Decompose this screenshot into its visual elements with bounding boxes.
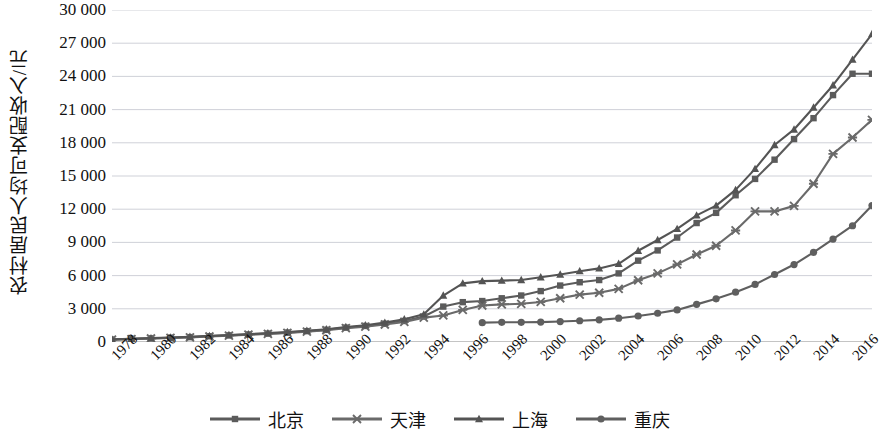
- y-axis-tick: 15 000: [59, 166, 106, 186]
- data-point-marker-x: [458, 306, 467, 314]
- data-point-marker-circle: [829, 235, 836, 242]
- data-point-marker-circle: [537, 318, 544, 325]
- data-point-marker-x: [614, 285, 623, 293]
- data-point-marker-x: [653, 269, 662, 277]
- data-point-marker-circle: [615, 315, 622, 322]
- data-point-marker-square: [771, 156, 777, 162]
- data-point-marker-x: [634, 276, 643, 284]
- data-point-marker-x: [536, 298, 545, 306]
- legend-item-4[interactable]: 重庆: [574, 406, 670, 432]
- data-point-marker-x: [556, 294, 565, 302]
- data-point-marker-circle: [596, 316, 603, 323]
- chart-canvas: [112, 10, 872, 342]
- data-point-marker-circle: [790, 261, 797, 268]
- data-point-marker-triangle: [439, 291, 447, 298]
- data-point-marker-square: [460, 299, 466, 305]
- data-point-marker-x: [750, 207, 759, 215]
- data-point-marker-square: [596, 277, 602, 283]
- data-point-marker-square: [869, 71, 872, 77]
- data-point-marker-square: [576, 279, 582, 285]
- data-point-marker-x: [731, 226, 740, 234]
- data-point-marker-square: [713, 210, 719, 216]
- data-point-marker-x: [789, 202, 798, 210]
- data-point-marker-circle: [693, 301, 700, 308]
- data-point-marker-square: [674, 234, 680, 240]
- data-point-marker-circle: [654, 310, 661, 317]
- data-point-marker-square: [849, 71, 855, 77]
- data-point-marker-circle: [597, 415, 604, 422]
- data-point-marker-square: [538, 288, 544, 294]
- y-axis-tick: 24 000: [59, 66, 106, 86]
- y-axis-tick: 12 000: [59, 199, 106, 219]
- data-point-marker-circle: [498, 319, 505, 326]
- data-point-marker-x: [848, 133, 857, 141]
- data-point-marker-square: [499, 295, 505, 301]
- series-line: [112, 74, 872, 340]
- data-point-marker-square: [810, 115, 816, 121]
- data-point-marker-square: [635, 257, 641, 263]
- data-point-marker-circle: [518, 319, 525, 326]
- data-point-marker-x: [770, 207, 779, 215]
- legend-label: 天津: [390, 406, 426, 432]
- data-point-marker-x: [867, 116, 872, 124]
- y-axis-tick: 9 000: [68, 232, 106, 252]
- data-point-marker-circle: [771, 271, 778, 278]
- legend-item-2[interactable]: 天津: [330, 406, 426, 432]
- data-point-marker-x: [673, 260, 682, 268]
- legend-label: 重庆: [634, 406, 670, 432]
- series-2: [112, 116, 872, 342]
- legend-item-1[interactable]: 北京: [208, 406, 304, 432]
- data-point-marker-x: [497, 300, 506, 308]
- data-point-marker-square: [232, 416, 238, 422]
- data-point-marker-circle: [810, 249, 817, 256]
- data-point-marker-circle: [557, 318, 564, 325]
- x-axis-tick-labels: 1978198019821984198619881990199219941996…: [0, 344, 878, 404]
- legend-marker-x-icon: [330, 412, 384, 426]
- y-axis-tick: 6 000: [68, 266, 106, 286]
- series-line: [112, 120, 872, 340]
- data-point-marker-square: [615, 270, 621, 276]
- data-point-marker-square: [654, 247, 660, 253]
- data-point-marker-square: [830, 92, 836, 98]
- data-point-marker-circle: [849, 222, 856, 229]
- legend-label: 北京: [268, 406, 304, 432]
- chart-legend: 北京天津上海重庆: [0, 402, 878, 436]
- legend-marker-square-icon: [208, 412, 262, 426]
- data-point-marker-x: [712, 242, 721, 250]
- data-point-marker-x: [352, 415, 361, 423]
- y-axis-tick: 3 000: [68, 299, 106, 319]
- data-point-marker-x: [828, 150, 837, 158]
- legend-marker-triangle-icon: [452, 412, 506, 426]
- series-1: [112, 71, 872, 342]
- data-point-marker-circle: [713, 295, 720, 302]
- y-axis-tick: 21 000: [59, 100, 106, 120]
- plot-area: [112, 10, 872, 342]
- data-point-marker-square: [752, 176, 758, 182]
- legend-marker-circle-icon: [574, 412, 628, 426]
- data-point-marker-circle: [635, 312, 642, 319]
- data-point-marker-square: [791, 136, 797, 142]
- y-axis-tick: 30 000: [59, 0, 106, 20]
- data-point-marker-x: [439, 311, 448, 319]
- y-axis-tick: 27 000: [59, 33, 106, 53]
- data-point-marker-circle: [732, 289, 739, 296]
- data-point-marker-circle: [674, 306, 681, 313]
- data-point-marker-circle: [479, 319, 486, 326]
- legend-label: 上海: [512, 406, 548, 432]
- data-point-marker-x: [517, 300, 526, 308]
- data-point-marker-square: [518, 292, 524, 298]
- data-point-marker-x: [809, 180, 818, 188]
- y-axis-tick-labels: 30 00027 00024 00021 00018 00015 00012 0…: [30, 0, 110, 352]
- data-point-marker-square: [440, 303, 446, 309]
- legend-item-3[interactable]: 上海: [452, 406, 548, 432]
- data-point-marker-square: [557, 282, 563, 288]
- data-point-marker-circle: [576, 317, 583, 324]
- data-point-marker-x: [595, 289, 604, 297]
- series-line: [112, 34, 872, 339]
- data-point-marker-x: [692, 250, 701, 258]
- data-point-marker-triangle: [868, 30, 872, 37]
- data-point-marker-x: [575, 291, 584, 299]
- y-axis-title-text: 农村居民人均可支配收入/元: [6, 49, 33, 295]
- data-point-marker-circle: [751, 281, 758, 288]
